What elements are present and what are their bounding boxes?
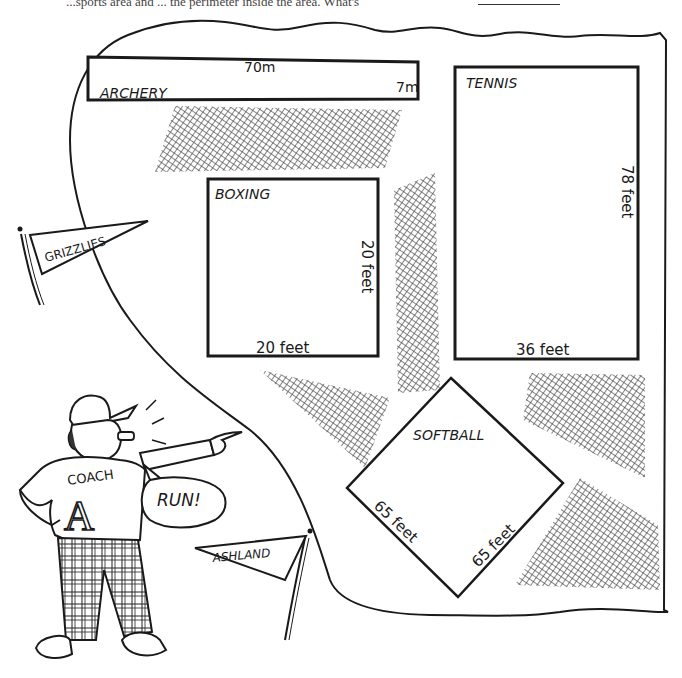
- hatched-area-middle: [394, 173, 440, 393]
- hatched-area-left: [260, 370, 390, 468]
- coach-shirt-letter: A: [64, 493, 95, 539]
- speech-text: RUN!: [157, 490, 201, 510]
- tennis-width-label: 36 feet: [516, 341, 570, 359]
- grizzlies-pennant: GRIZZLIES: [18, 221, 149, 305]
- boxing-bottom-label: 20 feet: [256, 339, 310, 357]
- speech-bubble: RUN!: [142, 465, 226, 528]
- archery-field: 70m 7m ARCHERY: [88, 57, 419, 101]
- tennis-length-label: 78 feet: [618, 165, 636, 219]
- boxing-side-label: 20 feet: [358, 240, 376, 294]
- boxing-label: BOXING: [215, 186, 270, 202]
- boxing-ring: BOXING 20 feet 20 feet: [208, 179, 378, 357]
- coach-figure: COACH A: [20, 396, 242, 658]
- archery-label: ARCHERY: [99, 85, 168, 101]
- tennis-court: TENNIS 78 feet 36 feet: [455, 67, 638, 359]
- archery-length-label: 70m: [244, 59, 275, 75]
- ashland-pennant: ASHLAND: [195, 529, 313, 641]
- hatched-area-top: [155, 106, 402, 172]
- tennis-label: TENNIS: [466, 75, 517, 91]
- softball-label: SOFTBALL: [413, 427, 484, 443]
- archery-width-label: 7m: [396, 79, 419, 95]
